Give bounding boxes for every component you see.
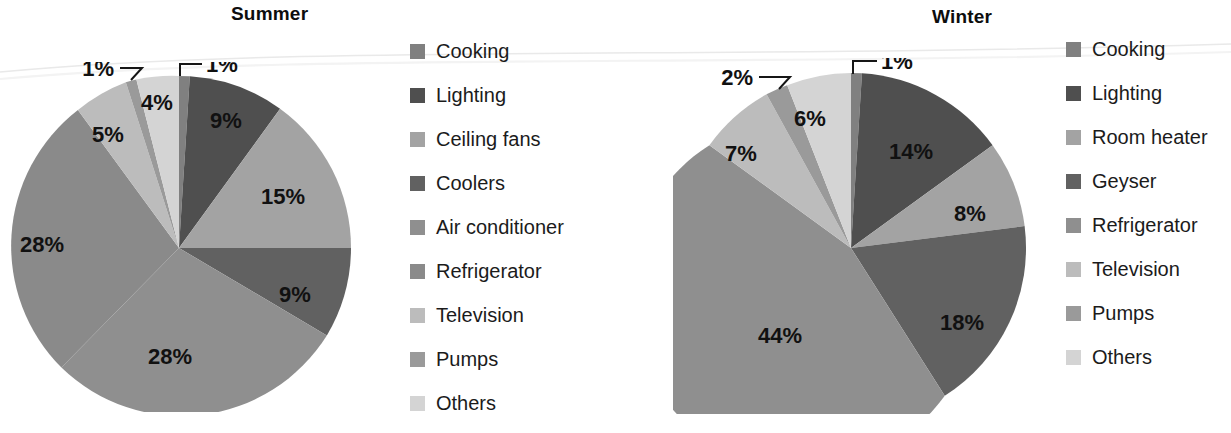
legend-label-television: Television [436,305,524,325]
legend-swatch-others-icon [410,396,425,411]
legend-swatch-refrigerator-icon [1066,218,1081,233]
legend-swatch-ceiling-fans-icon [410,132,425,147]
legend-swatch-cooking-icon [410,44,425,59]
legend-label-air-conditioner: Air conditioner [436,217,564,237]
callout-label-pumps: 1% [82,62,114,81]
legend-swatch-coolers-icon [410,176,425,191]
legend-swatch-refrigerator-icon [410,264,425,279]
legend-item-lighting[interactable]: Lighting [1066,71,1208,115]
chart-page: Summer [0,0,1231,433]
legend-label-room-heater: Room heater [1092,127,1208,147]
legend-label-refrigerator: Refrigerator [436,261,542,281]
summer-pie-chart: 9% 15% 9% 28% 28% 5% 4% 1% 1% [4,62,354,412]
callout-label-pumps: 2% [721,65,753,90]
legend-swatch-others-icon [1066,350,1081,365]
legend-label-others: Others [1092,347,1152,367]
legend-swatch-television-icon [410,308,425,323]
legend-label-coolers: Coolers [436,173,505,193]
legend-item-cooking[interactable]: Cooking [410,29,564,73]
legend-item-cooking[interactable]: Cooking [1066,27,1208,71]
legend-label-cooking: Cooking [1092,39,1165,59]
legend-item-pumps[interactable]: Pumps [410,337,564,381]
winter-chart-panel: Winter [640,0,1231,433]
legend-item-refrigerator[interactable]: Refrigerator [1066,203,1208,247]
legend-item-coolers[interactable]: Coolers [410,161,564,205]
leader-line-cooking [180,64,202,76]
legend-swatch-geyser-icon [1066,174,1081,189]
legend-item-lighting[interactable]: Lighting [410,73,564,117]
legend-item-refrigerator[interactable]: Refrigerator [410,249,564,293]
slice-label-lighting: 14% [889,139,933,164]
leader-line-cooking [853,61,877,74]
legend-label-refrigerator: Refrigerator [1092,215,1198,235]
slice-label-refrigerator: 28% [20,232,64,257]
slice-label-geyser: 18% [940,310,984,335]
legend-item-room-heater[interactable]: Room heater [1066,115,1208,159]
legend-label-pumps: Pumps [1092,303,1154,323]
slice-label-coolers: 9% [279,282,311,307]
callout-label-cooking: 1% [881,58,913,74]
legend-label-cooking: Cooking [436,41,509,61]
callout-label-cooking: 1% [206,62,238,77]
winter-legend: Cooking Lighting Room heater Geyser Refr… [1066,27,1208,379]
leader-line-pumps [120,68,142,80]
legend-item-pumps[interactable]: Pumps [1066,291,1208,335]
summer-legend: Cooking Lighting Ceiling fans Coolers Ai… [410,29,564,425]
legend-swatch-television-icon [1066,262,1081,277]
slice-label-others: 6% [794,106,826,131]
legend-label-ceiling-fans: Ceiling fans [436,129,541,149]
slice-label-ceiling-fans: 15% [261,184,305,209]
slice-label-television: 7% [725,141,757,166]
legend-item-ceiling-fans[interactable]: Ceiling fans [410,117,564,161]
legend-swatch-air-conditioner-icon [410,220,425,235]
legend-label-lighting: Lighting [436,85,506,105]
slice-label-refrigerator: 44% [758,323,802,348]
slice-label-lighting: 9% [210,108,242,133]
legend-swatch-lighting-icon [1066,86,1081,101]
legend-swatch-room-heater-icon [1066,130,1081,145]
legend-label-others: Others [436,393,496,413]
legend-item-television[interactable]: Television [410,293,564,337]
winter-chart-title: Winter [932,6,992,28]
slice-label-television: 5% [92,122,124,147]
winter-pie-chart: 14% 8% 18% 44% 7% 6% 1% 2% [673,58,1029,414]
legend-item-others[interactable]: Others [410,381,564,425]
legend-swatch-pumps-icon [410,352,425,367]
slice-label-air-conditioner: 28% [148,344,192,369]
slice-label-others: 4% [141,90,173,115]
legend-swatch-cooking-icon [1066,42,1081,57]
legend-label-television: Television [1092,259,1180,279]
legend-label-pumps: Pumps [436,349,498,369]
legend-label-lighting: Lighting [1092,83,1162,103]
legend-item-air-conditioner[interactable]: Air conditioner [410,205,564,249]
legend-item-geyser[interactable]: Geyser [1066,159,1208,203]
legend-label-geyser: Geyser [1092,171,1156,191]
winter-pie-slices [673,73,1026,414]
legend-swatch-lighting-icon [410,88,425,103]
legend-item-others[interactable]: Others [1066,335,1208,379]
legend-item-television[interactable]: Television [1066,247,1208,291]
summer-chart-title: Summer [231,3,308,25]
summer-chart-panel: Summer [0,0,640,433]
slice-label-room-heater: 8% [954,201,986,226]
legend-swatch-pumps-icon [1066,306,1081,321]
